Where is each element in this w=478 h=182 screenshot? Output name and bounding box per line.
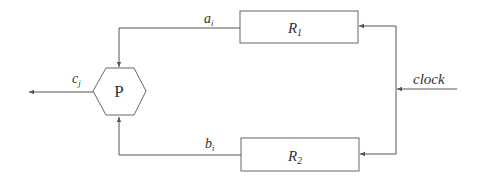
r1-label: R xyxy=(287,20,297,36)
processor-node: P xyxy=(93,68,146,115)
signal-b-label: bi xyxy=(205,136,215,153)
processor-label: P xyxy=(114,82,123,101)
diagram-canvas: P R1 R2 ai bi cj clock xyxy=(0,0,478,182)
signal-b-line xyxy=(119,117,241,155)
r1-subscript: 1 xyxy=(297,27,302,38)
r2-label: R xyxy=(287,148,297,164)
r2-subscript: 2 xyxy=(297,155,302,166)
svg-text:R1: R1 xyxy=(287,20,302,38)
register-r1: R1 xyxy=(240,11,358,43)
signal-a-line xyxy=(119,28,240,67)
svg-text:R2: R2 xyxy=(287,148,302,166)
clock-label: clock xyxy=(413,71,445,87)
signal-c-label: cj xyxy=(72,71,81,88)
register-r2: R2 xyxy=(241,138,359,171)
signal-a-label: ai xyxy=(204,11,214,28)
